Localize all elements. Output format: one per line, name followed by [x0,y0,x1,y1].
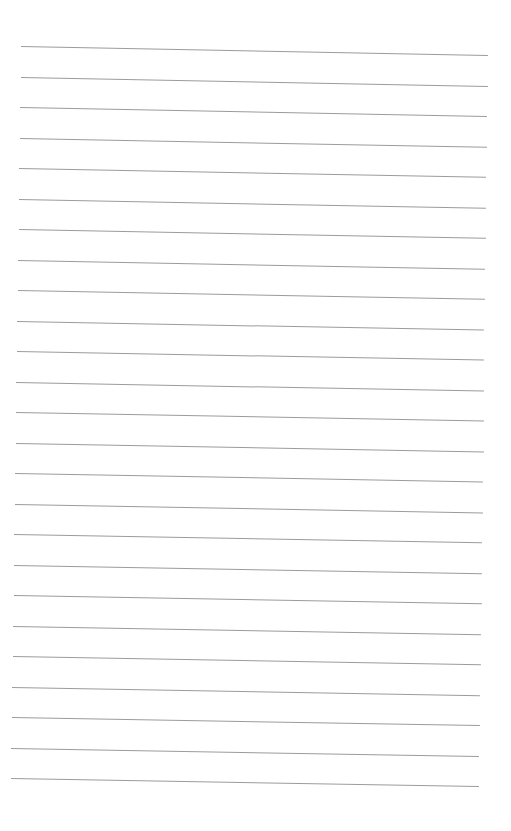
ruled-line [18,229,485,239]
ruled-line [21,77,488,87]
ruled-line [16,382,483,392]
ruled-line [17,321,484,331]
ruled-line [16,443,484,452]
ruled-line [14,565,482,574]
ruled-line [17,351,484,361]
lined-paper-page [0,0,511,831]
ruled-line [13,656,481,665]
ruled-line [11,748,479,757]
ruled-line [15,473,483,482]
ruled-line [15,504,483,513]
ruled-line [21,46,488,56]
ruled-line [13,595,481,604]
ruled-line [18,290,485,300]
ruled-line [12,717,480,726]
ruled-line [19,168,486,178]
ruled-line [20,107,487,117]
ruled-line [13,626,481,635]
ruled-line [14,534,482,543]
ruled-line [20,138,487,148]
ruled-line [16,412,484,421]
ruled-line [18,260,485,270]
ruled-line [19,199,486,209]
ruled-line [11,778,479,787]
ruled-line [12,687,480,696]
